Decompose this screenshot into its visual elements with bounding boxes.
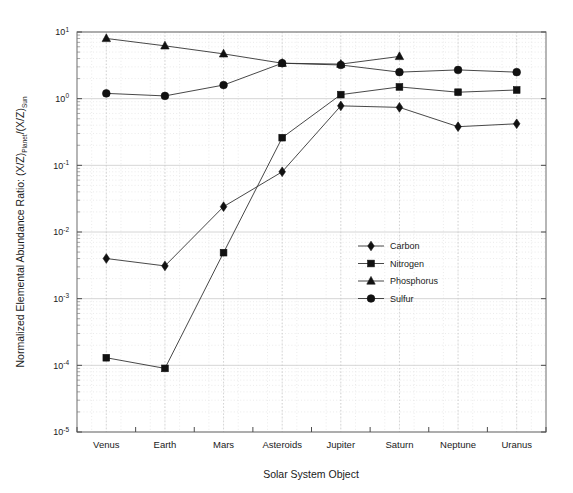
y-axis-title-lead: Normalized Elemental Abundance Ratio: (X… (14, 153, 26, 368)
x-tick-label-neptune: Neptune (440, 439, 476, 450)
y-axis-title-sub-planet: Planet (21, 134, 28, 153)
marker-circle (102, 90, 110, 98)
marker-circle (396, 68, 404, 76)
marker-square (455, 89, 462, 96)
x-tick-label-mars: Mars (213, 439, 234, 450)
legend-label-carbon: Carbon (390, 241, 420, 251)
abundance-ratio-line-chart: 10-510-410-310-210-1100101 VenusEarthMar… (0, 0, 573, 493)
x-tick-label-venus: Venus (93, 439, 120, 450)
marker-square (368, 260, 375, 267)
legend-label-sulfur: Sulfur (390, 294, 414, 304)
marker-circle (337, 61, 345, 69)
x-tick-label-asteroids: Asteroids (262, 439, 302, 450)
y-axis-title-mid: /(X/Z) (14, 108, 26, 134)
x-tick-label-uranus: Uranus (501, 439, 532, 450)
x-tick-label-earth: Earth (154, 439, 177, 450)
marker-square (396, 84, 403, 91)
marker-circle (513, 68, 521, 76)
x-axis-title: Solar System Object (263, 468, 359, 480)
marker-square (162, 365, 169, 372)
marker-square (279, 134, 286, 141)
marker-square (103, 354, 110, 361)
marker-square (220, 249, 227, 256)
marker-circle (278, 59, 286, 67)
x-tick-label-saturn: Saturn (385, 439, 413, 450)
chart-figure: 10-510-410-310-210-1100101 VenusEarthMar… (0, 0, 573, 493)
marker-circle (161, 92, 169, 100)
marker-circle (454, 66, 462, 74)
legend-label-nitrogen: Nitrogen (390, 259, 424, 269)
marker-circle (367, 295, 375, 303)
legend-label-phosphorus: Phosphorus (390, 276, 439, 286)
x-tick-label-jupiter: Jupiter (327, 439, 356, 450)
y-axis-title-sub-sun: Sun (21, 96, 28, 108)
marker-circle (220, 81, 228, 89)
marker-square (337, 91, 344, 98)
marker-square (513, 87, 520, 94)
